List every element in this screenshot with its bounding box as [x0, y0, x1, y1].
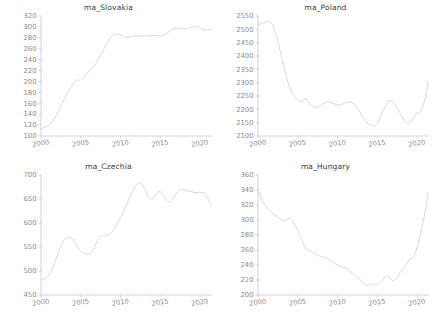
y-tick-label: 450 — [24, 291, 37, 299]
x-tick-label: 2000 — [249, 297, 267, 307]
x-tick-label: 2010 — [328, 297, 346, 307]
y-tick-label: 200 — [241, 291, 254, 299]
data-line — [258, 22, 428, 126]
y-tick-label: 160 — [24, 100, 37, 108]
y-tick-label: 300 — [24, 23, 37, 31]
x-tick-label: 2015 — [151, 138, 169, 148]
plot-svg-poland: 2100215022002250230023502400245025002550… — [217, 0, 434, 158]
chart-panel-hungary: ma_Hungary 20022024026028030032034036020… — [217, 159, 434, 317]
y-tick-label: 180 — [24, 89, 37, 97]
y-tick-label: 260 — [241, 246, 254, 254]
y-tick-label: 300 — [241, 216, 254, 224]
plot-svg-slovakia: 1001201401601802002202402602803003202000… — [0, 0, 217, 158]
y-tick-label: 220 — [24, 67, 37, 75]
chart-panel-czechia: ma_Czechia 45050055060065070020002005201… — [0, 159, 217, 317]
x-tick-label: 2005 — [71, 297, 89, 307]
y-tick-label: 280 — [241, 231, 254, 239]
y-tick-label: 260 — [24, 45, 37, 53]
y-tick-label: 2200 — [236, 106, 253, 114]
x-tick-label: 2020 — [191, 297, 209, 307]
y-tick-label: 700 — [24, 171, 37, 179]
x-tick-label: 2015 — [368, 138, 386, 148]
y-tick-label: 240 — [24, 56, 37, 64]
x-tick-label: 2000 — [249, 138, 267, 148]
y-tick-label: 2400 — [236, 52, 253, 60]
y-tick-label: 220 — [241, 276, 254, 284]
y-tick-label: 120 — [24, 121, 37, 129]
y-tick-label: 600 — [24, 219, 37, 227]
y-tick-label: 100 — [24, 132, 37, 140]
x-tick-label: 2010 — [111, 297, 129, 307]
y-tick-label: 2250 — [236, 92, 253, 100]
data-line — [41, 183, 211, 280]
x-tick-label: 2000 — [32, 138, 50, 148]
x-tick-label: 2010 — [111, 138, 129, 148]
x-tick-label: 2020 — [191, 138, 209, 148]
x-tick-label: 2020 — [408, 297, 426, 307]
y-tick-label: 2150 — [236, 119, 253, 127]
x-tick-label: 2020 — [408, 138, 426, 148]
y-tick-label: 360 — [241, 171, 254, 179]
x-tick-label: 2015 — [368, 297, 386, 307]
data-line — [258, 189, 428, 285]
y-tick-label: 500 — [24, 267, 37, 275]
y-tick-label: 2500 — [236, 26, 253, 34]
y-tick-label: 2350 — [236, 66, 253, 74]
y-tick-label: 320 — [241, 201, 254, 209]
x-tick-label: 2015 — [151, 297, 169, 307]
y-tick-label: 280 — [24, 34, 37, 42]
y-tick-label: 340 — [241, 186, 254, 194]
x-tick-label: 2010 — [328, 138, 346, 148]
x-tick-label: 2005 — [288, 138, 306, 148]
y-tick-label: 2450 — [236, 39, 253, 47]
y-tick-label: 200 — [24, 78, 37, 86]
chart-panel-slovakia: ma_Slovakia 1001201401601802002202402602… — [0, 0, 217, 158]
y-tick-label: 2300 — [236, 79, 253, 87]
y-tick-label: 140 — [24, 110, 37, 118]
y-tick-label: 650 — [24, 195, 37, 203]
y-tick-label: 240 — [241, 261, 254, 269]
y-tick-label: 550 — [24, 243, 37, 251]
x-tick-label: 2000 — [32, 297, 50, 307]
figure-canvas: ma_Slovakia 1001201401601802002202402602… — [0, 0, 434, 317]
chart-panel-poland: ma_Poland 210021502200225023002350240024… — [217, 0, 434, 158]
y-tick-label: 2550 — [236, 12, 253, 20]
plot-svg-czechia: 45050055060065070020002005201020152020 — [0, 159, 217, 317]
x-tick-label: 2005 — [288, 297, 306, 307]
y-tick-label: 320 — [24, 12, 37, 20]
x-tick-label: 2005 — [71, 138, 89, 148]
plot-svg-hungary: 2002202402602803003203403602000200520102… — [217, 159, 434, 317]
y-tick-label: 2100 — [236, 132, 253, 140]
data-line — [41, 26, 211, 129]
